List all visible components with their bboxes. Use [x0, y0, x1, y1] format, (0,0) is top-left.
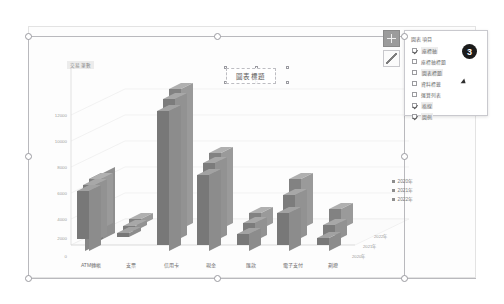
chart-legend[interactable]: 2020年 2021年 2022年 — [392, 177, 413, 204]
chart-elements-panel[interactable]: 圖表項目 座標軸 座標軸標題 圖表標題 資料標籤 運算列表 格線 圖例 — [404, 30, 488, 116]
element-label: 圖表標題 — [421, 69, 443, 76]
checkbox-icon[interactable] — [412, 103, 417, 108]
checkbox-icon[interactable] — [412, 92, 417, 97]
svg-text:現金: 現金 — [206, 262, 216, 269]
element-item-chart-title[interactable]: 圖表標題 — [405, 67, 487, 78]
depth-label: 2020年 — [352, 253, 387, 259]
x-axis-labels: ATM轉帳 支票 信用卡 現金 匯款 電子支付 劃撥 — [81, 262, 338, 269]
y-axis-title[interactable]: 交易筆數 — [67, 61, 94, 69]
element-item-legend[interactable]: 圖例 — [405, 111, 487, 122]
chart-title[interactable]: 圖表標題 — [226, 68, 276, 84]
element-label: 資料標籤 — [421, 80, 441, 87]
svg-text:8000: 8000 — [57, 165, 67, 170]
element-item-axis-titles[interactable]: 座標軸標題 — [405, 56, 487, 67]
resize-handle-top-left[interactable] — [25, 33, 32, 40]
depth-label: 2022年 — [374, 233, 387, 239]
checkbox-icon[interactable] — [412, 59, 417, 64]
legend-item-2: 2022年 — [392, 195, 413, 204]
resize-handle-bottom-right[interactable] — [401, 275, 408, 282]
element-label: 圖例 — [421, 113, 433, 120]
checkbox-icon[interactable] — [412, 81, 417, 86]
element-label: 座標軸 — [421, 47, 438, 54]
element-item-data-labels[interactable]: 資料標籤 — [405, 78, 487, 89]
svg-text:6000: 6000 — [57, 191, 67, 196]
callout-badge-3: 3 — [462, 44, 477, 59]
resize-handle-top-center[interactable] — [214, 33, 221, 40]
resize-handle-top-right[interactable] — [401, 33, 408, 40]
checkbox-icon[interactable] — [412, 114, 417, 119]
y-axis-ticks: 12000 10000 8000 6000 4000 2000 0 — [55, 113, 68, 259]
svg-text:4000: 4000 — [57, 217, 67, 222]
chart-quick-buttons[interactable] — [383, 30, 400, 70]
checkbox-icon[interactable] — [412, 70, 417, 75]
depth-axis-labels[interactable]: 2022年 2021年 2020年 — [374, 233, 387, 259]
legend-label: 2022年 — [398, 195, 414, 204]
svg-text:支票: 支票 — [126, 262, 136, 269]
title-handle-br[interactable] — [286, 81, 289, 84]
element-item-data-table[interactable]: 運算列表 — [405, 89, 487, 100]
legend-swatch-icon — [392, 180, 395, 183]
svg-text:電子支付: 電子支付 — [283, 262, 303, 269]
plus-icon — [387, 34, 396, 43]
depth-label: 2021年 — [363, 243, 387, 249]
resize-handle-bottom-center[interactable] — [214, 275, 221, 282]
legend-item-0: 2020年 — [392, 177, 413, 186]
title-handle-tr[interactable] — [286, 66, 289, 69]
element-label: 座標軸標題 — [421, 58, 446, 65]
element-label: 格線 — [421, 102, 433, 109]
panel-title: 圖表項目 — [405, 31, 487, 45]
svg-text:匯款: 匯款 — [246, 262, 256, 269]
legend-swatch-icon — [392, 198, 395, 201]
element-label: 運算列表 — [421, 91, 441, 98]
svg-text:劃撥: 劃撥 — [328, 262, 338, 269]
svg-text:0: 0 — [65, 254, 68, 259]
svg-text:2000: 2000 — [57, 236, 67, 241]
legend-label: 2021年 — [398, 186, 414, 195]
chart-styles-button[interactable] — [383, 50, 400, 67]
legend-label: 2020年 — [398, 177, 414, 186]
brush-icon — [386, 53, 397, 64]
legend-swatch-icon — [392, 189, 395, 192]
svg-text:12000: 12000 — [55, 113, 68, 118]
svg-text:10000: 10000 — [55, 139, 68, 144]
resize-handle-bottom-left[interactable] — [25, 275, 32, 282]
resize-handle-middle-left[interactable] — [25, 153, 32, 160]
screenshot-root: 12000 10000 8000 6000 4000 2000 0 ATM轉帳 … — [0, 0, 504, 304]
selection-line-bottom — [28, 278, 476, 279]
legend-item-1: 2021年 — [392, 186, 413, 195]
chart-elements-button[interactable] — [383, 30, 400, 47]
element-item-gridlines[interactable]: 格線 — [405, 100, 487, 111]
svg-text:信用卡: 信用卡 — [164, 262, 179, 269]
resize-handle-middle-right[interactable] — [401, 153, 408, 160]
svg-text:ATM轉帳: ATM轉帳 — [81, 262, 101, 269]
checkbox-icon[interactable] — [412, 48, 417, 53]
